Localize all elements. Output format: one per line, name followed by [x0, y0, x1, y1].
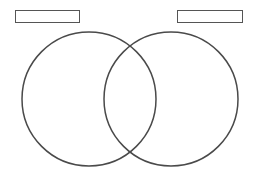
left-label-box[interactable]: [15, 10, 80, 23]
right-label-box[interactable]: [177, 10, 243, 23]
right-circle: [104, 32, 238, 166]
venn-diagram: [0, 0, 254, 178]
left-circle: [22, 32, 156, 166]
